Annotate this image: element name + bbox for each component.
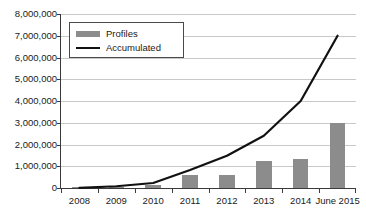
x-tick-mark [282, 189, 283, 193]
x-tick-mark [355, 189, 356, 193]
x-tick-mark [209, 189, 210, 193]
y-axis-labels: 01,000,0002,000,0003,000,0004,000,0005,0… [0, 0, 57, 222]
x-tick-mark [172, 189, 173, 193]
x-axis-labels: 2008200920102011201220132014June 2015 [0, 195, 366, 211]
x-tick-mark [98, 189, 99, 193]
y-axis-tick-label: 3,000,000 [15, 118, 57, 128]
legend-label-accumulated: Accumulated [106, 41, 161, 54]
chart-container: 01,000,0002,000,0003,000,0004,000,0005,0… [0, 0, 366, 222]
accumulated-polyline [79, 36, 337, 188]
y-axis-tick-label: 2,000,000 [15, 140, 57, 150]
y-axis-tick-label: 8,000,000 [15, 9, 57, 19]
x-axis-tick-label: June 2015 [313, 195, 362, 207]
legend-label-profiles: Profiles [106, 27, 138, 40]
x-tick-mark [319, 189, 320, 193]
x-tick-mark [135, 189, 136, 193]
x-axis-ticks [61, 189, 356, 194]
line-swatch-icon [76, 47, 100, 49]
x-tick-mark [61, 189, 62, 193]
y-axis-tick-label: 1,000,000 [15, 161, 57, 171]
chart-legend: Profiles Accumulated [69, 22, 184, 58]
y-axis-tick-label: 6,000,000 [15, 53, 57, 63]
bar-swatch-icon [76, 31, 100, 37]
y-axis-tick-label: 5,000,000 [15, 74, 57, 84]
x-tick-mark [245, 189, 246, 193]
y-axis-tick-label: 7,000,000 [15, 31, 57, 41]
y-axis-tick-label: 4,000,000 [15, 96, 57, 106]
